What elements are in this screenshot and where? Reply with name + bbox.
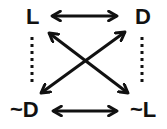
node-not-d: ~D bbox=[10, 99, 39, 121]
arrow-d-notd bbox=[41, 32, 125, 93]
node-d: D bbox=[135, 6, 151, 28]
node-not-l: ~L bbox=[130, 99, 156, 121]
opposition-square-diagram: L D ~D ~L bbox=[0, 0, 167, 129]
arrow-l-notl bbox=[49, 33, 128, 93]
node-l: L bbox=[26, 6, 39, 28]
